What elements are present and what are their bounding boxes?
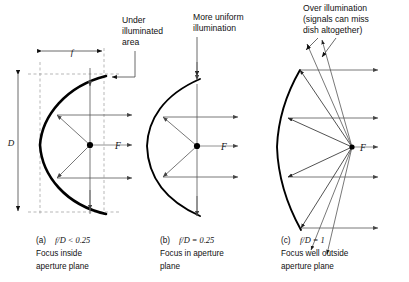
focus-label-b: F	[220, 142, 227, 152]
callout-under-line-1: Under	[122, 15, 146, 25]
caption-c-ratio: f/D = 1	[300, 236, 325, 245]
callout-over-line-1: Over illumination	[303, 3, 367, 13]
caption-a-tag: (a)	[36, 236, 46, 245]
caption-b-tag: (b)	[160, 236, 170, 245]
callout-under-line-2: illuminated	[122, 26, 163, 36]
callout-uniform-line-1: More uniform	[193, 12, 244, 22]
callout-under-line-3: area	[122, 37, 139, 47]
caption-c-line-2: aperture plane	[281, 262, 334, 271]
callout-uniform-line-2: illumination	[193, 23, 236, 33]
focus-point-b	[194, 143, 200, 149]
diameter-label-a: D	[7, 138, 15, 148]
caption-c-line-1: Focus well outside	[281, 249, 349, 258]
callout-over-line-3: dish altogether)	[303, 25, 362, 35]
caption-b-line-2: plane	[160, 262, 180, 271]
caption-a-line-1: Focus inside	[36, 249, 82, 258]
caption-c-tag: (c)	[281, 236, 291, 245]
caption-b-line-1: Focus in aperture	[160, 249, 224, 258]
caption-b-ratio: f/D = 0.25	[179, 236, 214, 245]
caption-a-line-2: aperture plane	[36, 262, 89, 271]
focus-point-c	[349, 144, 354, 149]
caption-a-ratio: f/D < 0.25	[55, 236, 90, 245]
callout-over-line-2: (signals can miss	[303, 14, 369, 24]
focus-point-a	[87, 142, 93, 148]
focus-label-c: F	[359, 143, 366, 153]
focus-label-a: F	[114, 141, 121, 151]
figure-root: f D F Under illuminated area	[0, 0, 409, 282]
